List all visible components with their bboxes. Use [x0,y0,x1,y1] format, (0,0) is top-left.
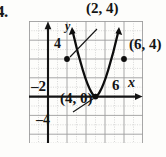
plot-point-6-4 [121,56,127,62]
x-axis-label: x [128,76,135,90]
annotation-point-4-0: (4, 0) [60,91,93,106]
y-axis-label: y [65,20,70,32]
annotation-point-6-4: (6, 4) [129,37,162,52]
tick-label-y-4: 4 [54,37,61,51]
tick-label-x-neg2: –2 [31,79,46,94]
textbook-problem-figure: 4. [0,0,166,157]
tick-label-x-6: 6 [112,78,120,93]
tick-label-y-neg4: –4 [36,113,50,127]
annotation-point-2-4: (2, 4) [86,1,119,16]
coordinate-graph: y x 4 –4 –2 6 [29,21,143,143]
problem-number: 4. [0,2,8,22]
plot-point-2-4 [64,56,70,62]
